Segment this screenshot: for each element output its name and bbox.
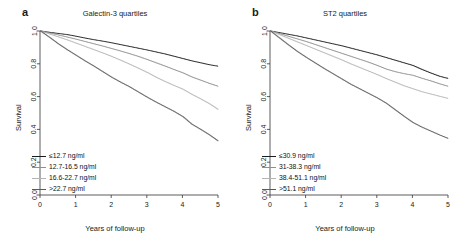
x-tick-label: 4: [410, 201, 414, 208]
x-axis-label-galectin3: Years of follow-up: [0, 224, 230, 233]
panel-galectin3: a Galectin-3 quartiles 0.00.20.40.60.81.…: [0, 0, 230, 241]
survival-figure: a Galectin-3 quartiles 0.00.20.40.60.81.…: [0, 0, 460, 241]
y-tick-label: 0.8: [261, 59, 268, 69]
legend-swatch: [262, 189, 276, 190]
y-axis-label-galectin3: Survival: [14, 104, 23, 131]
legend-label: >22.7 ng/ml: [49, 185, 85, 192]
legend-swatch: [32, 167, 46, 168]
x-tick-label: 1: [74, 201, 78, 208]
y-tick-label: 0.0: [261, 190, 268, 200]
y-tick-label: 0.0: [31, 190, 38, 200]
y-tick-label: 0.4: [261, 124, 268, 134]
legend-swatch: [262, 178, 276, 179]
x-tick-label: 0: [268, 201, 272, 208]
legend-swatch: [32, 189, 46, 190]
legend-label: 16.6-22.7 ng/ml: [49, 174, 96, 181]
x-tick-label: 3: [145, 201, 149, 208]
y-tick-label: 1.0: [31, 26, 38, 36]
x-tick-label: 2: [109, 201, 113, 208]
legend-label: 12.7-16.5 ng/ml: [49, 163, 96, 170]
x-tick-label: 5: [216, 201, 220, 208]
y-tick-label: 0.8: [31, 59, 38, 69]
legend-swatch: [32, 156, 46, 157]
y-tick-label: 0.6: [261, 92, 268, 102]
x-tick-label: 5: [446, 201, 450, 208]
x-tick-label: 1: [304, 201, 308, 208]
legend-swatch: [262, 156, 276, 157]
legend-swatch: [262, 167, 276, 168]
survival-curve: [40, 31, 218, 141]
y-axis-label-st2: Survival: [244, 104, 253, 131]
survival-curve: [40, 31, 218, 110]
y-tick-label: 1.0: [261, 26, 268, 36]
x-tick-label: 4: [180, 201, 184, 208]
y-tick-label: 0.6: [31, 92, 38, 102]
legend-label: ≤30.9 ng/ml: [279, 152, 314, 159]
legend-swatch: [32, 178, 46, 179]
legend-label: >51.1 ng/ml: [279, 185, 315, 192]
x-tick-label: 0: [38, 201, 42, 208]
legend-label: 31-38.3 ng/ml: [279, 163, 321, 170]
x-axis-label-st2: Years of follow-up: [230, 224, 460, 233]
x-tick-label: 3: [375, 201, 379, 208]
survival-curve: [270, 31, 448, 139]
x-tick-label: 2: [339, 201, 343, 208]
legend-label: ≤12.7 ng/ml: [49, 152, 84, 159]
y-tick-label: 0.2: [31, 157, 38, 167]
legend-label: 38.4-51.1 ng/ml: [279, 174, 326, 181]
y-tick-label: 0.4: [31, 124, 38, 134]
panel-st2: b ST2 quartiles 0.00.20.40.60.81.0012345…: [230, 0, 460, 241]
plot-area-galectin3: 0.00.20.40.60.81.0012345: [0, 0, 230, 241]
plot-area-st2: 0.00.20.40.60.81.0012345: [230, 0, 460, 241]
survival-curve: [270, 31, 448, 86]
y-tick-label: 0.2: [261, 157, 268, 167]
